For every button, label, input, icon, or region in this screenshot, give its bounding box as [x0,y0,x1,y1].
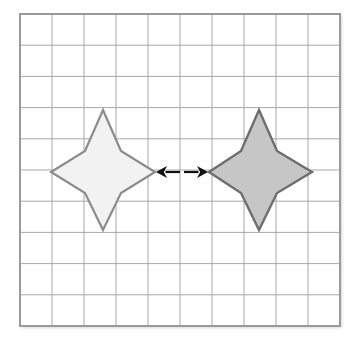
translation-diagram [0,0,358,348]
diagram-canvas [0,0,358,348]
